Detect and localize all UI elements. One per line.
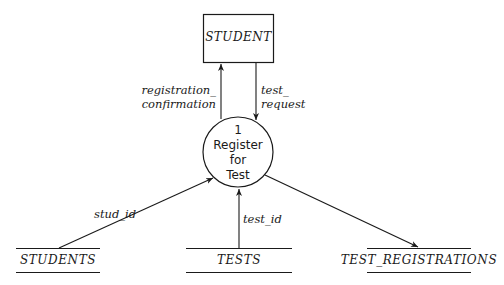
store-tests-label: TESTS [186, 253, 292, 267]
flow-label-registration-confirmation-2: confirmation [136, 97, 216, 111]
flow-label-test-request-1: test_ [261, 83, 289, 97]
flow-label-registration-confirmation-1: registration_ [136, 83, 216, 97]
process-label: 1 Register for Test [203, 123, 273, 183]
process-number: 1 [203, 123, 273, 138]
flow-to-test-registrations [265, 175, 418, 247]
flow-label-stud-id: stud_id [94, 207, 136, 221]
store-test-registrations-label: TEST_REGISTRATIONS [340, 253, 498, 267]
process-name-line2: for [203, 153, 273, 168]
process-name-line3: Test [203, 168, 273, 183]
flow-label-test-request-2: request [261, 97, 305, 111]
flow-label-test-id: test_id [243, 212, 282, 226]
student-entity-label: STUDENT [203, 30, 274, 44]
data-flow-diagram: STUDENT registration_ confirmation test_… [0, 0, 504, 285]
store-students-label: STUDENTS [10, 253, 106, 267]
process-name-line1: Register [203, 138, 273, 153]
